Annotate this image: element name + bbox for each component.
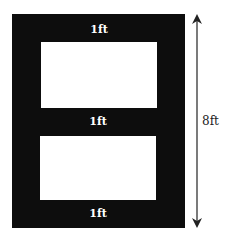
bottom-window-opening [40,136,156,200]
top-window-opening [41,42,157,108]
bottom-border-label: 1ft [68,208,128,220]
height-dimension-label: 8ft [202,114,219,128]
outer-frame: 1ft 1ft 1ft [12,14,185,228]
middle-border-label: 1ft [68,116,128,128]
top-border-label: 1ft [69,24,129,36]
